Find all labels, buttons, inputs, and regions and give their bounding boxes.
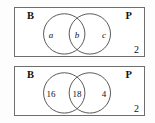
corner-label-top: 2 [134,45,139,55]
figure-canvas: B P a b c 2 B P 16 18 4 2 [0,0,155,123]
set-label-left-top: B [27,11,34,22]
region-left-only-bottom: 16 [47,90,56,99]
venn-diagram-top: B P a b c 2 [14,7,145,57]
set-label-right-bottom: P [126,70,132,81]
region-right-only-bottom: 4 [102,90,107,99]
region-intersection-top: b [75,31,80,40]
set-label-left-bottom: B [27,70,34,81]
set-label-right-top: P [126,11,132,22]
region-intersection-bottom: 18 [73,90,82,99]
region-right-only-top: c [102,31,106,40]
corner-label-bottom: 2 [134,104,139,114]
venn-diagram-bottom: B P 16 18 4 2 [14,66,145,116]
region-left-only-top: a [49,31,54,40]
